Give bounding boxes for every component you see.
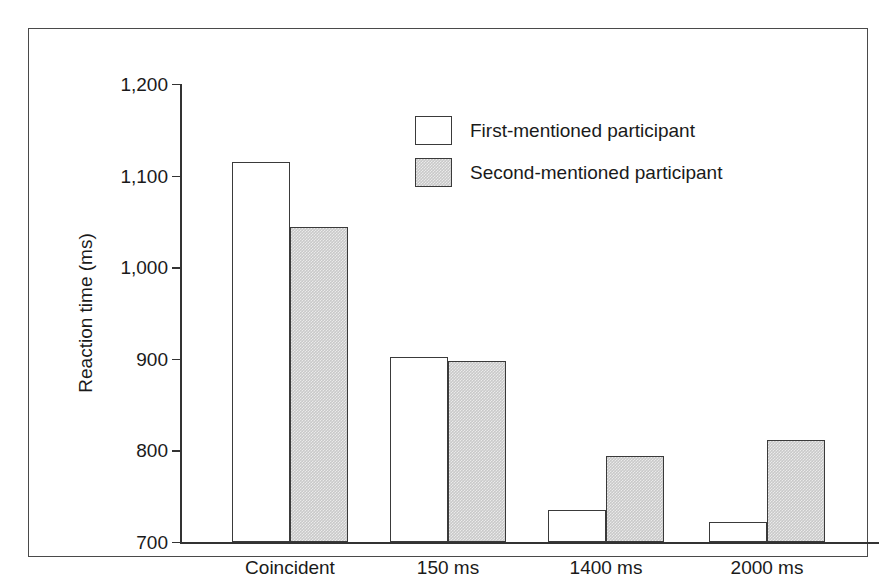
legend-swatch [415, 116, 452, 145]
y-axis-tick-label: 700 [136, 533, 168, 552]
y-axis-tick-label: 1,000 [120, 258, 168, 277]
y-axis-tick-mark [172, 176, 180, 177]
bar [548, 510, 606, 542]
x-axis-line [180, 542, 879, 544]
x-axis-category-label: 2000 ms [731, 558, 804, 577]
bar [290, 227, 348, 542]
chart-legend: First-mentioned participantSecond-mentio… [415, 109, 722, 193]
y-axis-tick-mark [172, 450, 180, 451]
legend-item: Second-mentioned participant [415, 151, 722, 193]
y-axis-title: Reaction time (ms) [73, 84, 99, 542]
bar [232, 162, 290, 542]
y-axis-tick-label: 1,100 [120, 166, 168, 185]
bar [390, 357, 448, 542]
legend-item: First-mentioned participant [415, 109, 722, 151]
y-axis-tick-mark [172, 542, 180, 543]
y-axis-tick-label: 1,200 [120, 75, 168, 94]
y-axis-tick-mark [172, 359, 180, 360]
bar [606, 456, 664, 542]
y-axis-tick-label: 800 [136, 441, 168, 460]
y-axis-line [180, 84, 182, 542]
legend-label: First-mentioned participant [470, 121, 695, 140]
bar [767, 440, 825, 542]
bar [448, 361, 506, 542]
legend-swatch [415, 158, 452, 187]
y-axis-tick-label: 900 [136, 349, 168, 368]
bar [709, 522, 767, 542]
figure-frame-border: Reaction time (ms) 1,2001,1001,000900800… [28, 28, 868, 557]
x-axis-category-label: Coincident [245, 558, 335, 577]
figure-container: Reaction time (ms) 1,2001,1001,000900800… [0, 0, 891, 586]
x-axis-category-label: 1400 ms [570, 558, 643, 577]
legend-label: Second-mentioned participant [470, 163, 722, 182]
x-axis-category-label: 150 ms [417, 558, 479, 577]
y-axis-tick-mark [172, 267, 180, 268]
y-axis-tick-mark [172, 84, 180, 85]
